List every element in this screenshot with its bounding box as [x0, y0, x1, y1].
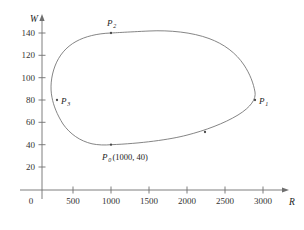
point-label-p1-subscript: 1 — [265, 101, 268, 107]
y-tick-label-60: 60 — [26, 117, 36, 127]
x-axis-title: R — [288, 197, 295, 207]
point-marker-p2 — [110, 32, 112, 34]
y-tick-label-100: 100 — [22, 73, 36, 83]
plot-area: 20 40 60 80 100 120 140 0 500 1000 1500 … — [0, 0, 304, 230]
x-tick-label-2000: 2000 — [178, 196, 197, 206]
point-label-p3-subscript: 3 — [66, 101, 70, 107]
point-marker-p3 — [56, 99, 58, 101]
figure-container: 20 40 60 80 100 120 140 0 500 1000 1500 … — [0, 0, 304, 230]
y-axis-title: W — [30, 14, 39, 24]
x-tick-label-1000: 1000 — [102, 196, 121, 206]
point-label-p3-name: P — [60, 96, 67, 106]
y-tick-label-40: 40 — [26, 140, 36, 150]
point-label-p0-coordinates: (1000, 40) — [113, 152, 149, 162]
y-tick-label-140: 140 — [22, 28, 36, 38]
x-tick-label-3000: 3000 — [254, 196, 273, 206]
x-tick-label-1500: 1500 — [140, 196, 159, 206]
y-tick-label-120: 120 — [22, 50, 36, 60]
point-marker-p1 — [254, 99, 256, 101]
point-marker-p0 — [110, 144, 112, 146]
x-tick-label-0: 0 — [29, 196, 34, 206]
y-tick-label-20: 20 — [26, 162, 36, 172]
point-label-p0-subscript: 0 — [108, 157, 111, 163]
x-tick-label-500: 500 — [66, 196, 80, 206]
point-label-p2-subscript: 2 — [113, 23, 116, 29]
point-label-p1-name: P — [258, 96, 265, 106]
point-label-p2-name: P — [106, 18, 113, 28]
y-tick-label-80: 80 — [26, 95, 36, 105]
point-label-p0-name: P — [101, 152, 108, 162]
point-marker-unlabeled — [204, 131, 206, 133]
x-tick-label-2500: 2500 — [216, 196, 235, 206]
